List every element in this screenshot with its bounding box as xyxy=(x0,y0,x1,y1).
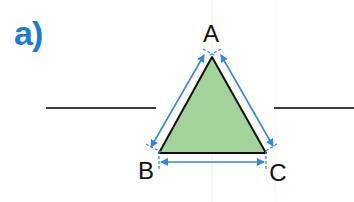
vertex-label-a: A xyxy=(203,20,219,47)
vertex-label-c: C xyxy=(269,159,286,186)
triangle-figure: A B C xyxy=(0,0,354,202)
vertex-label-b: B xyxy=(138,157,154,184)
